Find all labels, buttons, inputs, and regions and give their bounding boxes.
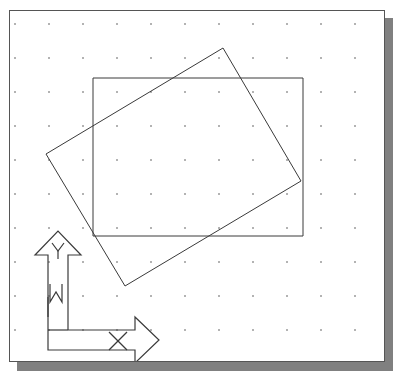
ucs-axis-indicator[interactable]: X / Y / W (35, 231, 159, 362)
grid-dot (184, 91, 186, 93)
grid-dot (252, 57, 254, 59)
grid-dot (252, 227, 254, 229)
grid-dot (320, 57, 322, 59)
grid-dot (354, 227, 356, 229)
grid-dot (218, 193, 220, 195)
grid-dot (116, 125, 118, 127)
grid-dot (150, 125, 152, 127)
grid-dot (354, 261, 356, 263)
grid-dot (14, 23, 16, 25)
grid-dot (116, 159, 118, 161)
grid-dot (286, 295, 288, 297)
grid-dot (218, 125, 220, 127)
rectangle-axis-aligned[interactable] (93, 78, 303, 236)
grid-dot (184, 193, 186, 195)
grid-dot (150, 227, 152, 229)
grid-dot (320, 329, 322, 331)
grid-dot (252, 295, 254, 297)
grid-dot (354, 329, 356, 331)
grid-dot (252, 159, 254, 161)
grid-dot (82, 261, 84, 263)
grid-dot (184, 295, 186, 297)
grid-dot (116, 91, 118, 93)
grid-dot (82, 23, 84, 25)
grid-dot (354, 57, 356, 59)
grid-dot (82, 91, 84, 93)
grid-dot (48, 125, 50, 127)
grid-dot (286, 159, 288, 161)
grid-dot (218, 329, 220, 331)
grid-dot (252, 23, 254, 25)
grid-dot (320, 23, 322, 25)
grid-dot (116, 57, 118, 59)
grid-dot (82, 159, 84, 161)
grid-dot (252, 329, 254, 331)
grid-dot (320, 193, 322, 195)
grid-dot (48, 23, 50, 25)
grid-dot (286, 329, 288, 331)
grid-dot (184, 329, 186, 331)
grid-dot (320, 125, 322, 127)
grid-dot (14, 227, 16, 229)
grid-dot (286, 227, 288, 229)
grid-dot (116, 295, 118, 297)
grid-dot (184, 159, 186, 161)
grid-dot (286, 125, 288, 127)
grid-dot (218, 159, 220, 161)
grid-dot (14, 295, 16, 297)
grid-dot (218, 261, 220, 263)
grid-dot (14, 125, 16, 127)
grid-dot (218, 23, 220, 25)
grid-dot (14, 329, 16, 331)
grid-dot (14, 91, 16, 93)
grid-dot (150, 295, 152, 297)
ucs-y-label-glyph (52, 243, 64, 251)
snap-dot-grid (14, 23, 356, 331)
grid-dot (82, 57, 84, 59)
grid-dot (354, 23, 356, 25)
grid-dot (48, 57, 50, 59)
grid-dot (218, 295, 220, 297)
grid-dot (286, 261, 288, 263)
grid-dot (320, 295, 322, 297)
grid-dot (252, 193, 254, 195)
grid-dot (354, 125, 356, 127)
grid-dot (286, 23, 288, 25)
grid-dot (354, 295, 356, 297)
grid-dot (14, 57, 16, 59)
drawing-surface[interactable]: X / Y / W (10, 11, 385, 362)
shapes-layer[interactable] (46, 48, 303, 286)
grid-dot (82, 295, 84, 297)
grid-dot (354, 193, 356, 195)
grid-dot (252, 125, 254, 127)
grid-dot (116, 193, 118, 195)
rectangle-rotated[interactable] (46, 48, 301, 286)
grid-dot (82, 193, 84, 195)
grid-dot (354, 159, 356, 161)
grid-dot (14, 159, 16, 161)
cad-canvas-window: X / Y / W (0, 0, 408, 384)
grid-dot (150, 57, 152, 59)
grid-dot (184, 261, 186, 263)
grid-dot (150, 329, 152, 331)
grid-dot (150, 261, 152, 263)
grid-dot (116, 261, 118, 263)
grid-dot (150, 159, 152, 161)
grid-dot (320, 227, 322, 229)
grid-dot (48, 193, 50, 195)
grid-dot (218, 91, 220, 93)
grid-dot (184, 125, 186, 127)
grid-dot (82, 125, 84, 127)
grid-dot (48, 91, 50, 93)
grid-dot (286, 193, 288, 195)
grid-dot (286, 57, 288, 59)
grid-dot (150, 23, 152, 25)
grid-dot (320, 261, 322, 263)
grid-dot (320, 91, 322, 93)
grid-dot (116, 227, 118, 229)
grid-dot (184, 23, 186, 25)
grid-dot (116, 23, 118, 25)
drawing-sheet[interactable]: X / Y / W (9, 10, 385, 362)
grid-dot (150, 193, 152, 195)
grid-dot (184, 57, 186, 59)
